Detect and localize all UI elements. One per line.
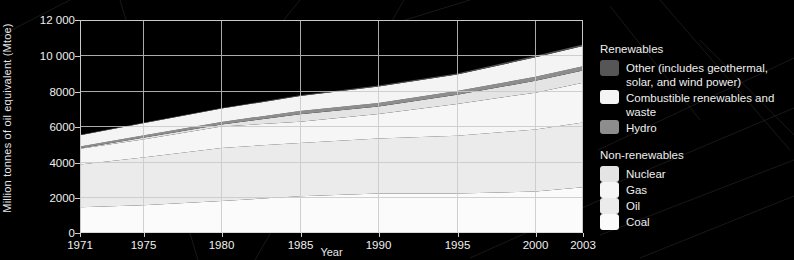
legend-swatch-hydro: [600, 120, 619, 134]
xtick-mark: [301, 233, 302, 237]
legend-item-combustible[interactable]: Combustible renewables and waste: [600, 90, 794, 119]
ytick-label-0: 0: [69, 227, 75, 239]
legend-label-combustible: Combustible renewables and waste: [626, 90, 794, 119]
legend-label-coal: Coal: [626, 214, 650, 229]
ytick-label-6000: 6000: [49, 121, 75, 133]
ytick-label-10000: 10 000: [40, 50, 75, 62]
chart-figure: 12 000 10 000 8000 6000 4000 2000 0 1971…: [0, 0, 794, 260]
legend-item-oil[interactable]: Oil: [600, 198, 794, 214]
xtick-mark: [583, 233, 584, 237]
legend-swatch-combustible: [600, 90, 619, 104]
legend-group-title-nonrenewables: Non-renewables: [600, 148, 794, 162]
ytick-mark: [75, 56, 80, 57]
legend-label-hydro: Hydro: [626, 120, 657, 135]
legend-swatch-coal: [600, 214, 619, 230]
xtick-mark: [379, 233, 380, 237]
xtick-mark: [536, 233, 537, 237]
legend-item-other[interactable]: Other (includes geothermal, solar, and w…: [600, 60, 794, 89]
ytick-label-2000: 2000: [49, 192, 75, 204]
legend-label-nuclear: Nuclear: [626, 166, 666, 181]
legend-swatch-oil: [600, 198, 619, 214]
legend-group-nonrenewables: Nuclear Gas Oil Coal: [600, 166, 794, 230]
ytick-mark: [75, 163, 80, 164]
xtick-mark: [80, 233, 81, 237]
ytick-label-4000: 4000: [49, 157, 75, 169]
legend-swatch-gas: [600, 182, 619, 198]
ytick-mark: [75, 127, 80, 128]
xtick-mark: [458, 233, 459, 237]
stacked-area-series: [80, 20, 583, 233]
legend-item-nuclear[interactable]: Nuclear: [600, 166, 794, 182]
ytick-mark: [75, 20, 80, 21]
legend-label-gas: Gas: [626, 182, 647, 197]
chart-legend: Renewables Other (includes geothermal, s…: [600, 42, 794, 230]
clipped-top-text: [95, 0, 455, 10]
xtick-mark: [144, 233, 145, 237]
legend-label-oil: Oil: [626, 198, 640, 213]
xtick-mark: [222, 233, 223, 237]
x-axis-title: Year: [80, 246, 583, 258]
ytick-label-8000: 8000: [49, 86, 75, 98]
legend-group-title-renewables: Renewables: [600, 42, 794, 56]
legend-swatch-other: [600, 60, 619, 76]
ytick-label-12000: 12 000: [40, 14, 75, 26]
legend-item-hydro[interactable]: Hydro: [600, 120, 794, 135]
y-axis-title: Million tonnes of oil equivalent (Mtoe): [1, 3, 13, 233]
legend-swatch-nuclear: [600, 166, 619, 182]
series-band-group: [80, 44, 583, 233]
ytick-mark: [75, 198, 80, 199]
legend-item-gas[interactable]: Gas: [600, 182, 794, 198]
ytick-mark: [75, 92, 80, 93]
legend-item-coal[interactable]: Coal: [600, 214, 794, 230]
plot-area: 12 000 10 000 8000 6000 4000 2000 0 1971…: [80, 20, 583, 233]
legend-label-other: Other (includes geothermal, solar, and w…: [626, 60, 768, 89]
